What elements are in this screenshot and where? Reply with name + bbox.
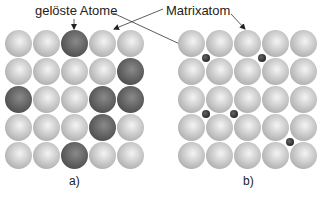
matrix-atom	[206, 86, 233, 113]
matrix-atom	[290, 86, 317, 113]
solute-atom	[5, 86, 32, 113]
matrix-atom	[33, 142, 60, 169]
matrix-atom	[290, 30, 317, 57]
arrow-to-matrix-atom-a	[114, 9, 163, 29]
matrix-atom	[262, 58, 289, 85]
matrix-atom	[61, 86, 88, 113]
interstitial-atom	[202, 54, 210, 62]
matrix-atom	[89, 142, 116, 169]
matrix-atom	[262, 86, 289, 113]
matrix-atom	[178, 58, 205, 85]
solute-atom	[89, 114, 116, 141]
panel-label-a: a)	[69, 175, 80, 187]
matrix-atom	[290, 142, 317, 169]
matrix-atom	[234, 142, 261, 169]
matrix-atom	[5, 114, 32, 141]
matrix-atom	[234, 30, 261, 57]
solute-atom	[117, 58, 144, 85]
matrix-atom	[117, 142, 144, 169]
matrix-atom	[5, 30, 32, 57]
matrix-atom	[206, 58, 233, 85]
matrix-atom	[234, 86, 261, 113]
matrix-atom	[117, 30, 144, 57]
matrix-atom	[61, 58, 88, 85]
interstitial-atom	[230, 110, 238, 118]
matrix-atom	[33, 86, 60, 113]
matrix-atom	[206, 114, 233, 141]
solute-atom	[89, 86, 116, 113]
matrix-atom	[5, 58, 32, 85]
matrix-atom	[262, 114, 289, 141]
matrix-atom	[262, 30, 289, 57]
matrix-atom	[234, 114, 261, 141]
matrix-atom	[234, 58, 261, 85]
matrix-atom	[33, 58, 60, 85]
lattice-interstitial	[178, 30, 318, 170]
matrix-atom	[178, 86, 205, 113]
matrix-atom	[61, 114, 88, 141]
matrix-atom	[178, 114, 205, 141]
matrix-atom	[33, 30, 60, 57]
solute-atom	[117, 86, 144, 113]
interstitial-atom	[286, 138, 294, 146]
matrix-atom	[206, 30, 233, 57]
interstitial-atom	[202, 110, 210, 118]
arrow-to-matrix-atom-b	[231, 14, 245, 29]
solute-atom	[61, 142, 88, 169]
matrix-atom	[178, 30, 205, 57]
interstitial-atom	[258, 54, 266, 62]
panel-label-b: b)	[243, 175, 254, 187]
lattice-substitutional	[5, 30, 145, 170]
matrix-atom	[262, 142, 289, 169]
matrix-atom	[89, 58, 116, 85]
solute-atom	[61, 30, 88, 57]
matrix-atom	[206, 142, 233, 169]
matrix-atom	[178, 142, 205, 169]
matrix-atom	[117, 114, 144, 141]
matrix-atom	[33, 114, 60, 141]
matrix-atom	[290, 58, 317, 85]
matrix-atom	[5, 142, 32, 169]
matrix-atom	[89, 30, 116, 57]
matrix-atom	[290, 114, 317, 141]
